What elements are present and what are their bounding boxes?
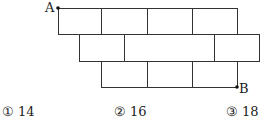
choice-3[interactable]: ③18 <box>226 104 259 119</box>
choice-1-marker: ① <box>2 104 14 119</box>
choice-3-value: 18 <box>242 104 259 119</box>
choice-2[interactable]: ②16 <box>114 104 147 119</box>
brick-grid-diagram <box>0 0 263 121</box>
choice-1-value: 14 <box>18 104 35 119</box>
brick-row-3 <box>102 62 238 88</box>
point-a-dot <box>56 6 60 10</box>
point-b-label: B <box>239 82 249 95</box>
choice-2-value: 16 <box>130 104 147 119</box>
choice-2-marker: ② <box>114 104 126 119</box>
choice-3-marker: ③ <box>226 104 238 119</box>
point-a-label: A <box>45 1 54 14</box>
choice-1[interactable]: ①14 <box>2 104 35 119</box>
brick-row-2 <box>80 35 260 62</box>
